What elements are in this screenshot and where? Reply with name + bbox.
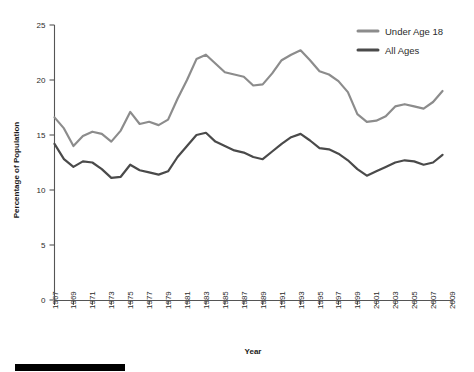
x-tick-label: 1971 — [88, 291, 97, 309]
x-tick-label: 2003 — [391, 291, 400, 309]
x-tick-label: 1997 — [334, 291, 343, 309]
x-tick-label: 1987 — [240, 291, 249, 309]
x-tick-label: 1985 — [221, 291, 230, 309]
x-tick-label: 1993 — [297, 291, 306, 309]
y-tick-label: 0 — [41, 296, 46, 305]
y-tick-label: 25 — [37, 21, 46, 30]
series-group — [55, 50, 443, 178]
x-tick-label: 1969 — [69, 291, 78, 309]
x-tick-label: 1981 — [183, 291, 192, 309]
y-tick-label: 5 — [41, 241, 46, 250]
x-axis-title: Year — [245, 347, 262, 356]
x-tick-label: 1999 — [353, 291, 362, 309]
x-tick-label: 1979 — [164, 291, 173, 309]
x-tick-label: 2001 — [372, 291, 381, 309]
x-tick-label: 1977 — [145, 291, 154, 309]
x-tick-label: 1983 — [202, 291, 211, 309]
x-tick-label: 1995 — [316, 291, 325, 309]
poverty-rate-line-chart: 0510152025 19671969197119731975197719791… — [0, 0, 474, 372]
legend-label-1: All Ages — [385, 45, 420, 56]
y-axis-title: Percentage of Population — [12, 122, 21, 219]
chart-legend: Under Age 18All Ages — [358, 26, 443, 56]
y-tick-label: 15 — [37, 131, 46, 140]
chart-canvas: 0510152025 19671969197119731975197719791… — [0, 0, 474, 372]
y-axis-tick-group: 0510152025 — [37, 21, 55, 305]
x-tick-label: 1975 — [126, 291, 135, 309]
legend-label-0: Under Age 18 — [385, 26, 443, 37]
footer-rule — [15, 364, 125, 371]
x-tick-label: 2007 — [429, 291, 438, 309]
x-tick-label: 1991 — [278, 291, 287, 309]
x-tick-label: 1989 — [259, 291, 268, 309]
x-tick-label: 1973 — [107, 291, 116, 309]
y-tick-label: 10 — [37, 186, 46, 195]
x-axis-tick-group: 1967196919711973197519771979198119831985… — [51, 291, 458, 309]
x-tick-label: 2005 — [410, 291, 419, 309]
y-tick-label: 20 — [37, 76, 46, 85]
series-line-0 — [55, 50, 443, 146]
x-tick-label: 2009 — [448, 291, 457, 309]
